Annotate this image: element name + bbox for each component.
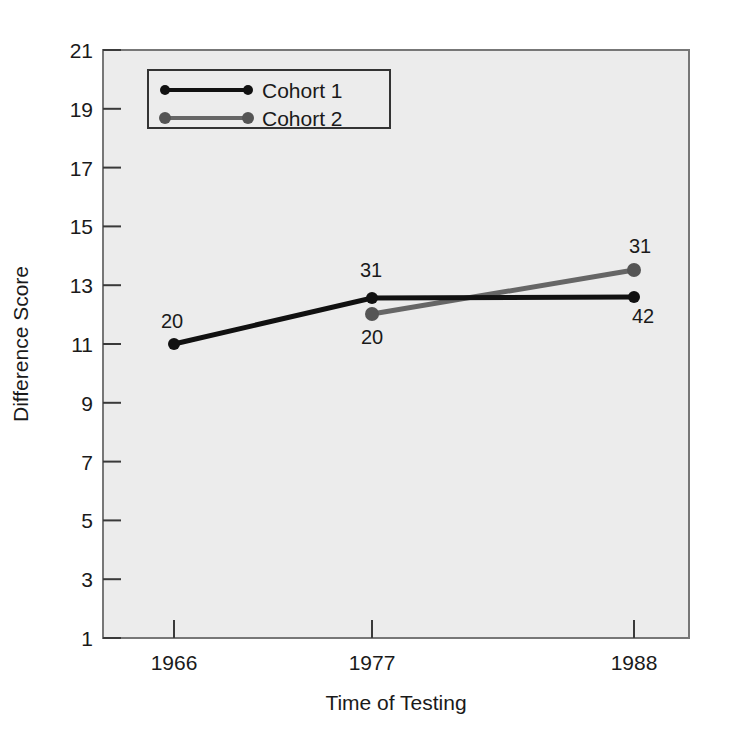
legend-label-cohort-1: Cohort 1 xyxy=(262,79,343,102)
series-cohort-2-point-1988 xyxy=(627,263,641,277)
x-axis-tick-labels: 1966 1977 1988 xyxy=(151,651,658,674)
legend-marker-cohort-2-start xyxy=(159,112,171,124)
x-tick-label-1977: 1977 xyxy=(349,651,396,674)
annotation-cohort1-1977: 31 xyxy=(360,259,382,281)
y-tick-label-9: 9 xyxy=(81,392,93,415)
y-axis-tick-labels: 21 19 17 15 13 11 9 7 5 3 1 xyxy=(70,39,93,650)
y-tick-label-19: 19 xyxy=(70,98,93,121)
annotation-cohort2-1988: 31 xyxy=(629,235,651,257)
series-cohort-1-point-1977 xyxy=(366,292,378,304)
y-tick-label-15: 15 xyxy=(70,215,93,238)
legend[interactable]: Cohort 1 Cohort 2 xyxy=(148,70,390,130)
legend-label-cohort-2: Cohort 2 xyxy=(262,107,343,130)
series-cohort-1-point-1966 xyxy=(168,338,180,350)
x-tick-label-1966: 1966 xyxy=(151,651,198,674)
y-tick-label-13: 13 xyxy=(70,274,93,297)
line-chart: 21 19 17 15 13 11 9 7 5 3 1 Difference S… xyxy=(0,0,736,740)
y-tick-label-11: 11 xyxy=(71,333,93,356)
y-axis-title: Difference Score xyxy=(9,266,32,422)
y-tick-label-5: 5 xyxy=(81,509,93,532)
x-axis-title: Time of Testing xyxy=(325,691,466,714)
x-tick-label-1988: 1988 xyxy=(611,651,658,674)
legend-marker-cohort-1-end xyxy=(243,85,253,95)
series-cohort-2-point-1977 xyxy=(365,307,379,321)
plot-area-background xyxy=(103,50,689,638)
series-cohort-1-point-1988 xyxy=(628,291,640,303)
annotation-cohort1-1988: 42 xyxy=(632,305,654,327)
y-tick-label-17: 17 xyxy=(70,157,93,180)
figure-container: 21 19 17 15 13 11 9 7 5 3 1 Difference S… xyxy=(0,0,736,740)
y-tick-label-3: 3 xyxy=(81,568,93,591)
y-tick-label-7: 7 xyxy=(81,451,93,474)
legend-marker-cohort-2-end xyxy=(242,112,254,124)
annotation-cohort1-1966: 20 xyxy=(161,310,183,332)
y-tick-label-1: 1 xyxy=(81,627,93,650)
y-tick-label-21: 21 xyxy=(70,39,93,62)
annotation-cohort2-1977: 20 xyxy=(361,326,383,348)
legend-marker-cohort-1-start xyxy=(160,85,170,95)
